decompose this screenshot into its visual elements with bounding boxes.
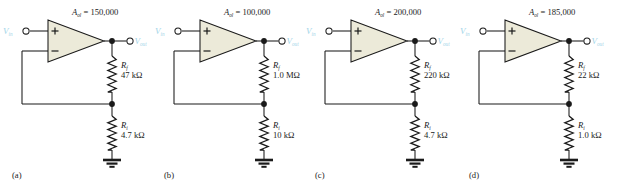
input-voltage-label: Vin — [3, 26, 13, 37]
ground-icon — [406, 160, 424, 167]
ri-value: 10 kΩ — [273, 130, 294, 140]
input-terminal-icon — [480, 28, 486, 34]
ri-value: 4.7 kΩ — [424, 130, 448, 140]
ri-resistor-symbol — [411, 116, 419, 150]
output-voltage-label: Vout — [592, 36, 605, 47]
input-voltage-label: Vin — [155, 26, 165, 37]
rf-resistor-symbol — [260, 56, 268, 92]
circuit-c: Aol = 200,000VinVoutRf220 kΩRi4.7 kΩ(c) — [303, 0, 458, 186]
rf-value: 220 kΩ — [424, 70, 450, 80]
ri-value: 1.0 kΩ — [578, 130, 602, 140]
ground-icon — [103, 160, 121, 167]
circuit-a: Aol = 150,000VinVoutRf47 kΩRi4.7 kΩ(a) — [0, 0, 155, 186]
ri-resistor-symbol — [108, 116, 116, 150]
feedback-wire — [22, 51, 112, 104]
opamp-triangle — [200, 20, 256, 62]
ri-resistor-symbol — [260, 116, 268, 150]
ground-icon — [255, 160, 273, 167]
output-voltage-label: Vout — [287, 36, 300, 47]
output-voltage-label: Vout — [438, 36, 451, 47]
open-loop-gain-label: Aol = 100,000 — [223, 7, 270, 18]
open-loop-gain-label: Aol = 185,000 — [528, 7, 575, 18]
circuit-caption: (a) — [12, 170, 22, 180]
input-voltage-label: Vin — [460, 26, 470, 37]
ri-value: 4.7 kΩ — [121, 130, 145, 140]
circuit-caption: (c) — [315, 170, 325, 180]
output-terminal-icon — [584, 38, 590, 44]
ri-resistor-symbol — [565, 116, 573, 150]
output-terminal-icon — [127, 38, 133, 44]
input-terminal-icon — [175, 28, 181, 34]
opamp-circuits-figure: Aol = 150,000VinVoutRf47 kΩRi4.7 kΩ(a)Ao… — [0, 0, 617, 186]
output-terminal-icon — [430, 38, 436, 44]
open-loop-gain-label: Aol = 200,000 — [374, 7, 421, 18]
input-terminal-icon — [326, 28, 332, 34]
feedback-wire — [325, 51, 415, 104]
output-terminal-icon — [279, 38, 285, 44]
rf-resistor-symbol — [565, 56, 573, 92]
rf-value: 22 kΩ — [578, 70, 599, 80]
opamp-triangle — [505, 20, 561, 62]
rf-resistor-symbol — [108, 56, 116, 92]
feedback-wire — [479, 51, 569, 104]
open-loop-gain-label: Aol = 150,000 — [71, 7, 118, 18]
ground-icon — [560, 160, 578, 167]
circuit-b: Aol = 100,000VinVoutRf1.0 MΩRi10 kΩ(b) — [152, 0, 307, 186]
input-terminal-icon — [23, 28, 29, 34]
opamp-triangle — [351, 20, 407, 62]
circuit-caption: (d) — [469, 170, 479, 180]
circuit-caption: (b) — [164, 170, 174, 180]
input-voltage-label: Vin — [306, 26, 316, 37]
rf-value: 1.0 MΩ — [273, 70, 300, 80]
rf-value: 47 kΩ — [121, 70, 142, 80]
feedback-wire — [174, 51, 264, 104]
circuit-d: Aol = 185,000VinVoutRf22 kΩRi1.0 kΩ(d) — [457, 0, 612, 186]
opamp-triangle — [48, 20, 104, 62]
rf-resistor-symbol — [411, 56, 419, 92]
output-voltage-label: Vout — [135, 36, 148, 47]
